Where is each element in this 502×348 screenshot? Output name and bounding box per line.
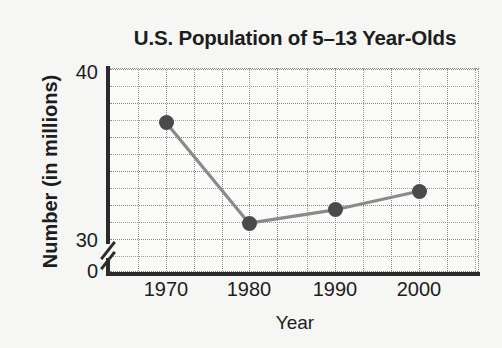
x-tick-label-1990: 1990 (290, 278, 380, 301)
gridline-vertical (335, 68, 336, 273)
x-tick-label-1980: 1980 (204, 278, 294, 301)
gridline-horizontal (110, 205, 478, 206)
gridline-horizontal (110, 171, 478, 172)
gridline-vertical (249, 68, 250, 273)
y-tick-label-30: 30 (38, 229, 98, 252)
y-tick-label-0: 0 (38, 260, 98, 283)
gridline-horizontal (110, 154, 478, 155)
x-tick-label-1970: 1970 (121, 278, 211, 301)
gridline-horizontal (110, 120, 478, 121)
plot-area (110, 68, 478, 273)
gridline-horizontal (110, 69, 478, 70)
gridline-vertical (475, 68, 476, 273)
gridline-vertical (307, 68, 308, 273)
gridline-vertical (222, 68, 223, 273)
gridline-vertical (138, 68, 139, 273)
gridline-vertical (194, 68, 195, 273)
gridline-horizontal (110, 103, 478, 104)
gridline-horizontal (110, 137, 478, 138)
y-tick-label-40: 40 (38, 61, 98, 84)
x-axis-title: Year (110, 312, 480, 334)
gridline-vertical (166, 68, 167, 273)
chart-figure: U.S. Population of 5–13 Year-Olds Number… (0, 0, 502, 348)
gridline-horizontal (110, 86, 478, 87)
chart-title: U.S. Population of 5–13 Year-Olds (95, 26, 495, 50)
y-axis-title: Number (in millions) (39, 52, 62, 292)
gridline-vertical (419, 68, 420, 273)
gridline-horizontal (110, 239, 478, 240)
gridline-horizontal (110, 256, 478, 257)
gridline-vertical (447, 68, 448, 273)
x-tick-label-2000: 2000 (374, 278, 464, 301)
x-axis-line (106, 272, 480, 276)
gridline-vertical (363, 68, 364, 273)
gridline-vertical (277, 68, 278, 273)
gridline-vertical (391, 68, 392, 273)
gridline-horizontal (110, 222, 478, 223)
y-axis-line (106, 66, 110, 244)
gridline-horizontal (110, 188, 478, 189)
